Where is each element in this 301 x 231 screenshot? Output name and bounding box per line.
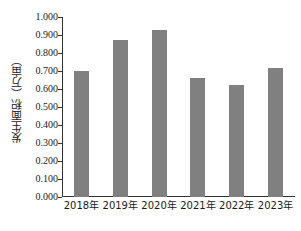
y-axis-tick-label: 0.100 <box>22 174 58 184</box>
y-axis-tick-label: 0.500 <box>22 102 58 112</box>
bar <box>268 68 283 197</box>
y-axis-tick-label: 0.300 <box>22 138 58 148</box>
x-axis-tick-label: 2023年 <box>254 200 298 212</box>
x-axis-tick-label: 2018年 <box>59 200 103 212</box>
y-axis-tick-label: 0.600 <box>22 84 58 94</box>
y-axis-tick-label: 0.200 <box>22 156 58 166</box>
plot-area <box>62 17 295 197</box>
bar <box>113 40 128 198</box>
bar <box>229 85 244 197</box>
bar <box>190 78 205 197</box>
y-axis-tick-label: 0.400 <box>22 120 58 130</box>
bar <box>152 30 167 197</box>
x-axis-tick-label: 2020年 <box>137 200 181 212</box>
y-axis-tick-label: 0.900 <box>22 30 58 40</box>
y-axis-tick-labels: 0.0000.1000.2000.3000.4000.5000.6000.700… <box>22 0 58 231</box>
y-axis-tick-label: 0.800 <box>22 48 58 58</box>
x-axis-tick-label: 2022年 <box>215 200 259 212</box>
x-axis-tick-label: 2019年 <box>98 200 142 212</box>
y-axis-tick-label: 0.000 <box>22 192 58 202</box>
y-axis-title-text: 发生面积（万亩） <box>12 55 23 143</box>
bar <box>74 71 89 197</box>
x-axis-tick-label: 2021年 <box>176 200 220 212</box>
y-axis-tick-mark <box>58 197 62 198</box>
y-axis-tick-label: 0.700 <box>22 66 58 76</box>
x-axis-tick-labels: 2018年2019年2020年2021年2022年2023年 <box>62 200 295 218</box>
y-axis-tick-label: 1.000 <box>22 12 58 22</box>
bar-chart: 发生面积（万亩） 0.0000.1000.2000.3000.4000.5000… <box>0 0 301 231</box>
bars-layer <box>62 17 295 197</box>
